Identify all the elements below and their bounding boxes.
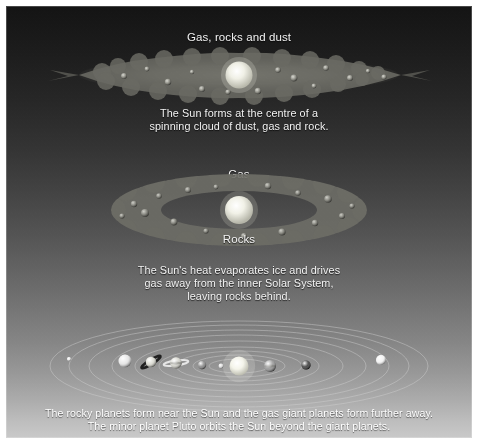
mercury-shading	[376, 355, 386, 365]
planet-neptune	[119, 355, 132, 368]
planet-earth	[219, 364, 224, 369]
neptune-shading	[119, 355, 132, 368]
planet-saturn	[140, 354, 161, 370]
planet-mercury	[376, 355, 386, 365]
pluto-shading	[67, 357, 71, 361]
saturn-shading	[146, 357, 156, 367]
earth-shading	[219, 364, 224, 369]
stage-three-layer: The rocky planets form near the Sun and …	[6, 6, 472, 438]
planet-uranus	[163, 357, 188, 369]
uranus-shading	[170, 357, 182, 369]
sun	[230, 357, 249, 376]
planet-venus	[301, 360, 310, 369]
solar-system-formation-figure: Gas, rocks and dust	[0, 0, 478, 444]
planet-pluto	[67, 357, 71, 361]
planet-mars	[198, 361, 206, 369]
illustration-plate: Gas, rocks and dust	[6, 6, 472, 438]
planet-jupiter	[264, 360, 276, 372]
planets	[67, 350, 386, 382]
mars-shading	[198, 361, 206, 369]
solar-system-illustration	[6, 324, 472, 408]
venus-shading	[301, 360, 310, 369]
jupiter-shading	[264, 360, 276, 372]
